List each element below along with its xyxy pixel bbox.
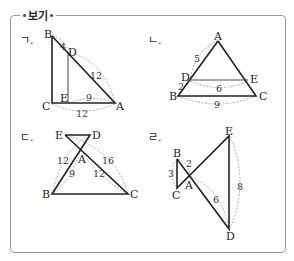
measure-bc: 9 [214, 99, 220, 110]
point-a: A [184, 179, 194, 192]
measure-bc: 3 [168, 168, 174, 179]
measure-da: 12 [90, 70, 102, 81]
measure-ec: 16 [102, 155, 114, 166]
point-a: A [115, 100, 125, 113]
measure-bd: 12 [57, 155, 69, 166]
point-a: A [213, 30, 223, 43]
figure-r-label: ㄹ. [148, 131, 162, 144]
measure-ea: 9 [86, 92, 92, 103]
point-d: D [226, 230, 235, 243]
point-d: D [68, 46, 77, 59]
point-c: C [172, 189, 180, 202]
measure-ba: 2 [186, 158, 192, 169]
measure-ac: 12 [93, 168, 105, 179]
point-b: B [169, 90, 177, 103]
measure-de: 6 [216, 83, 222, 94]
measure-db: 2 [178, 81, 184, 92]
point-e: E [55, 129, 63, 142]
point-b: B [42, 188, 50, 201]
measure-ad: 5 [194, 53, 200, 64]
point-e: E [225, 125, 233, 138]
point-c: C [42, 100, 50, 113]
figure-g: ㄱ. B D E C A 4 12 9 12 [20, 28, 125, 119]
figure-g-label: ㄱ. [20, 34, 34, 47]
measure-ca: 12 [76, 108, 88, 119]
point-c: C [259, 90, 267, 103]
measure-ab: 9 [69, 168, 75, 179]
figure-n-label: ㄴ. [148, 34, 162, 47]
point-e: E [60, 92, 68, 105]
figure-d-label: ㄷ. [20, 131, 34, 144]
measure-bd: 4 [60, 41, 66, 52]
point-a: A [77, 153, 87, 166]
measure-ed: 8 [237, 181, 243, 192]
measure-ad: 6 [213, 194, 219, 205]
figures-canvas: ㄱ. B D E C A 4 12 9 12 ㄴ. A D E B C 5 2 … [0, 0, 294, 261]
figure-n: ㄴ. A D E B C 5 2 6 9 [148, 30, 267, 110]
point-b: B [44, 28, 52, 41]
point-c: C [130, 188, 138, 201]
point-e: E [250, 73, 258, 86]
figure-d: ㄷ. E D A B C 12 9 16 12 [20, 129, 138, 201]
figure-r: ㄹ. B C A E D 3 2 6 8 [148, 125, 243, 243]
point-d: D [92, 129, 101, 142]
point-b: B [173, 147, 181, 160]
